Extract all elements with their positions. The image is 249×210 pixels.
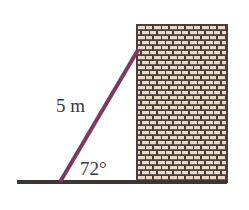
ladder-length-label: 5 m (56, 96, 85, 115)
brick-wall (137, 25, 227, 182)
angle-label: 72° (80, 159, 107, 178)
ladder-wall-diagram (0, 0, 249, 210)
ground-line (17, 180, 227, 184)
